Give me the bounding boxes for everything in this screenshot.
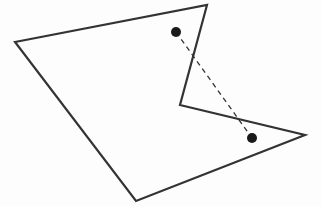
concave-polygon-diagram [0,0,321,207]
diagram-canvas [0,0,321,207]
point-b [247,133,257,143]
point-a [171,27,181,37]
concave-polygon [15,5,305,201]
dashed-segment [176,32,252,138]
